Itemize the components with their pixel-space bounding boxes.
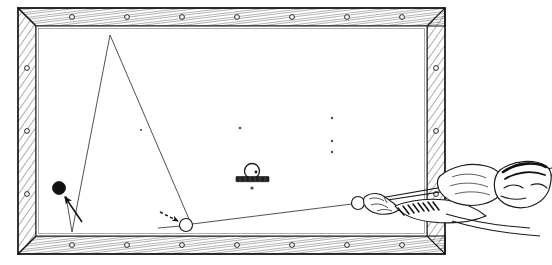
table-rails <box>18 8 445 254</box>
object-ball-target-black <box>53 182 66 195</box>
billiard-illustration <box>0 0 552 265</box>
player-body-edge <box>446 214 540 236</box>
illustration-canvas <box>0 0 552 265</box>
rail-top <box>18 8 445 26</box>
object-ball-white <box>180 219 193 232</box>
ball-rest-block <box>236 177 269 182</box>
rail-bottom <box>18 236 445 254</box>
billiard-table <box>18 8 445 254</box>
ball-on-stand-mark-icon <box>255 171 258 174</box>
cue-ball <box>352 197 365 210</box>
